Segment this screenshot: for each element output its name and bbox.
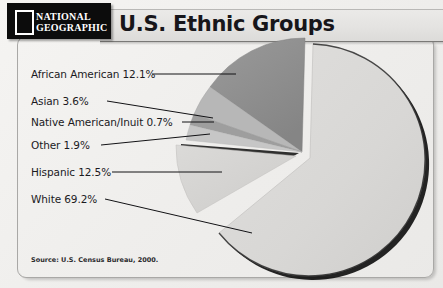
leader-line-white: [105, 199, 252, 233]
callout-label-hispanic: Hispanic 12.5%: [31, 166, 111, 178]
callout-label-african-american: African American 12.1%: [31, 68, 155, 80]
callout-label-native-american-inuit: Native American/Inuit 0.7%: [31, 116, 173, 128]
callout-label-other: Other 1.9%: [31, 139, 90, 151]
national-geographic-logo: NATIONAL GEOGRAPHIC: [7, 3, 111, 39]
callout-label-white: White 69.2%: [31, 193, 97, 205]
page-title: U.S. Ethnic Groups: [119, 12, 335, 36]
logo-line-geographic: GEOGRAPHIC: [36, 22, 107, 33]
source-credit: Source: U.S. Census Bureau, 2000.: [31, 256, 158, 264]
logo-line-national: NATIONAL: [36, 11, 91, 22]
callout-label-asian: Asian 3.6%: [31, 95, 89, 107]
rectangle-frame-icon: [15, 10, 34, 35]
infographic-root: U.S. Ethnic Groups NATIONAL GEOGRAPHIC: [0, 0, 443, 288]
